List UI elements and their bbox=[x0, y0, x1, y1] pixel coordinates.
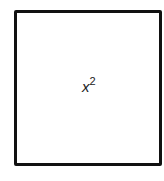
area-label: x2 bbox=[82, 76, 96, 95]
label-exponent: 2 bbox=[90, 75, 96, 87]
label-base: x bbox=[82, 78, 90, 95]
